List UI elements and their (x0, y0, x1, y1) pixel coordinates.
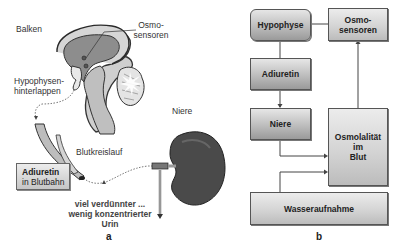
box-osmosensoren-line1: Osmo- (345, 15, 372, 25)
panel-b-letter: b (316, 231, 322, 242)
box-osmolalitaet-line1: Osmolalität (335, 132, 381, 142)
box-osmolalitaet-line3: Blut (350, 152, 367, 162)
box-adiuretin: Adiuretin (250, 58, 311, 90)
box-osmosensoren: Osmo- sensoren (328, 8, 388, 41)
box-hypophyse: Hypophyse (250, 9, 311, 41)
box-niere: Niere (250, 108, 311, 140)
box-osmolalitaet-line2: im (353, 142, 363, 152)
box-osmolalitaet-im-blut: Osmolalität im Blut (328, 108, 388, 186)
box-osmosensoren-line2: sensoren (339, 25, 377, 35)
box-wasseraufnahme: Wasseraufnahme (250, 192, 388, 225)
